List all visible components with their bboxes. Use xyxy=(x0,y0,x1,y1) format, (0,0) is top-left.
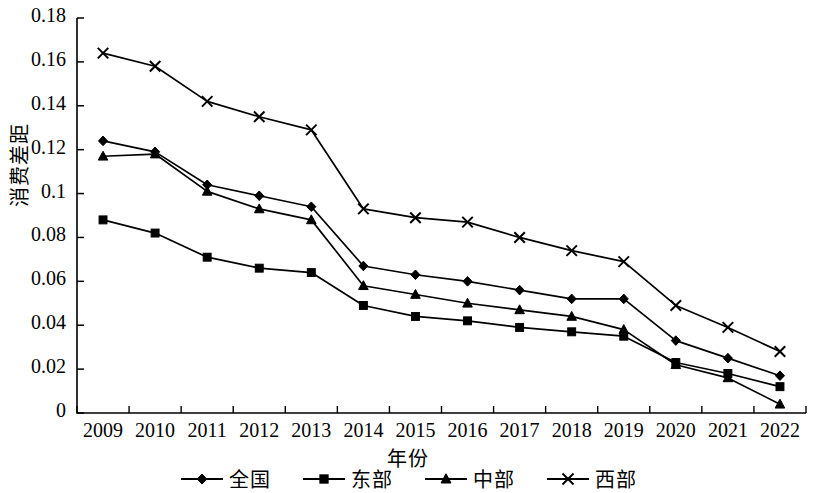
data-point xyxy=(515,285,524,295)
data-point xyxy=(514,232,525,243)
data-point xyxy=(464,317,472,325)
consumption-gap-line-chart: 消费差距 年份 00.020.040.060.080.10.120.140.16… xyxy=(0,0,816,493)
x-tick-label: 2019 xyxy=(594,419,654,442)
legend-label: 东部 xyxy=(351,464,393,493)
x-tick-label: 2012 xyxy=(229,419,289,442)
data-point xyxy=(775,346,786,357)
data-point xyxy=(723,322,734,333)
x-tick-label: 2014 xyxy=(333,419,393,442)
data-point xyxy=(463,277,472,287)
y-tick-label: 0.06 xyxy=(31,267,66,290)
y-tick-label: 0.1 xyxy=(41,180,66,203)
y-tick-label: 0.12 xyxy=(31,136,66,159)
x-tick-label: 2022 xyxy=(750,419,810,442)
data-point xyxy=(98,136,107,146)
data-point xyxy=(775,371,784,381)
data-point xyxy=(202,96,213,107)
legend-item-triangle: 中部 xyxy=(423,464,515,493)
x-tick-label: 2016 xyxy=(438,419,498,442)
legend-item-square: 东部 xyxy=(301,464,393,493)
x-tick-label: 2013 xyxy=(281,419,341,442)
data-point xyxy=(203,253,211,261)
data-point xyxy=(671,300,682,311)
data-point xyxy=(150,61,161,72)
data-point xyxy=(567,294,576,304)
legend-label: 中部 xyxy=(473,464,515,493)
data-point xyxy=(307,269,315,277)
data-point xyxy=(412,312,420,320)
chart-legend: 全国东部中部西部 xyxy=(0,464,816,493)
y-tick-label: 0.18 xyxy=(31,4,66,27)
y-tick-label: 0.02 xyxy=(31,355,66,378)
y-tick-label: 0.08 xyxy=(31,223,66,246)
legend-label: 全国 xyxy=(229,464,271,493)
diamond-marker-icon xyxy=(179,469,225,489)
x-tick-label: 2011 xyxy=(177,419,237,442)
data-point xyxy=(411,270,420,280)
x-tick-label: 2021 xyxy=(698,419,758,442)
x-tick-label: 2009 xyxy=(73,419,133,442)
data-point xyxy=(151,229,159,237)
data-point xyxy=(254,112,265,123)
data-point xyxy=(723,353,732,363)
y-tick-label: 0.14 xyxy=(31,92,66,115)
y-axis-ticks xyxy=(77,18,84,413)
data-point xyxy=(306,125,317,136)
data-point xyxy=(516,323,524,331)
data-point xyxy=(359,302,367,310)
x-tick-label: 2020 xyxy=(646,419,706,442)
data-point xyxy=(776,383,784,391)
y-axis-title: 消费差距 xyxy=(4,105,33,225)
legend-label: 西部 xyxy=(595,464,637,493)
y-tick-label: 0 xyxy=(56,399,66,422)
x-tick-label: 2018 xyxy=(542,419,602,442)
x-tick-label: 2015 xyxy=(385,419,445,442)
y-tick-label: 0.16 xyxy=(31,48,66,71)
legend-item-diamond: 全国 xyxy=(179,464,271,493)
data-point xyxy=(775,399,785,408)
data-point xyxy=(202,186,212,195)
data-point xyxy=(255,191,264,201)
x-tick-label: 2017 xyxy=(490,419,550,442)
y-tick-label: 0.04 xyxy=(31,311,66,334)
data-point xyxy=(98,48,109,59)
cross-marker-icon xyxy=(545,469,591,489)
x-axis-ticks xyxy=(77,406,806,413)
data-point xyxy=(568,328,576,336)
series-1 xyxy=(98,136,784,380)
axis-lines xyxy=(77,18,806,413)
square-marker-icon xyxy=(301,469,347,489)
series-2 xyxy=(99,216,784,391)
series-4 xyxy=(98,48,785,357)
data-point xyxy=(99,216,107,224)
data-point xyxy=(255,264,263,272)
x-tick-label: 2010 xyxy=(125,419,185,442)
triangle-marker-icon xyxy=(423,469,469,489)
legend-item-cross: 西部 xyxy=(545,464,637,493)
